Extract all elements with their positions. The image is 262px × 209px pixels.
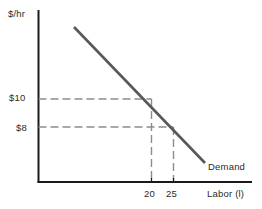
x-axis-title: Labor (l) bbox=[207, 189, 244, 199]
demand-curve-chart: $/hr Labor (l) $10 $8 20 25 Demand bbox=[0, 0, 262, 209]
y-tick-label-10: $10 bbox=[9, 93, 25, 103]
x-tick-label-25: 25 bbox=[166, 189, 177, 199]
chart-plot-area bbox=[0, 0, 262, 209]
demand-series-label: Demand bbox=[208, 162, 245, 172]
y-tick-label-8: $8 bbox=[16, 123, 27, 133]
demand-curve-line bbox=[74, 27, 205, 163]
y-axis-title: $/hr bbox=[8, 9, 25, 19]
x-tick-label-20: 20 bbox=[144, 189, 155, 199]
